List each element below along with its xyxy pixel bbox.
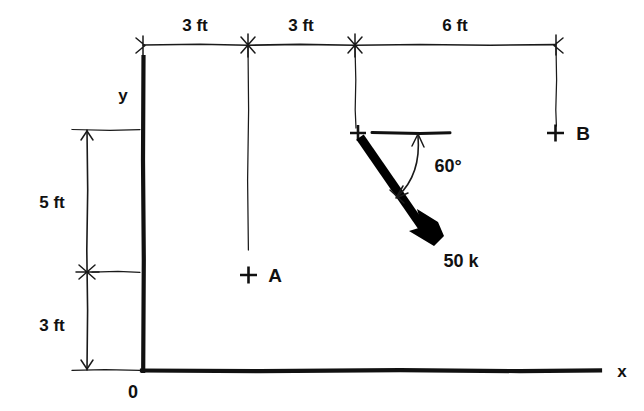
extension-line-b (556, 46, 557, 126)
point-a-group: A (240, 265, 282, 286)
point-b-label: B (576, 123, 590, 144)
x-axis (142, 370, 600, 371)
left-extension-mid (92, 272, 140, 273)
extension-lines-group (248, 46, 557, 250)
dimension-tick-start (136, 36, 145, 55)
point-b-group: B (547, 123, 590, 144)
extension-line-a (248, 46, 249, 250)
dimension-label-seg3: 6 ft (442, 16, 468, 35)
dimension-label-seg2: 3 ft (288, 16, 314, 35)
origin-label: 0 (128, 382, 138, 402)
y-axis (143, 57, 144, 371)
extension-line-load (355, 46, 356, 128)
left-dimension-line (87, 130, 88, 370)
left-extension-top (72, 130, 140, 131)
point-b-marker (547, 125, 564, 142)
load-group: 60° 50 k (350, 125, 479, 271)
y-axis-label: y (118, 86, 128, 105)
vertical-dimension-label-seg1: 5 ft (39, 193, 65, 212)
dimension-tick-end (554, 35, 563, 55)
left-extension-bottom (72, 370, 140, 371)
vertical-dimension-label-seg2: 3 ft (39, 316, 65, 335)
force-magnitude-label: 50 k (443, 251, 479, 271)
horizontal-reference-line (372, 133, 450, 134)
top-dimension-line (143, 44, 556, 45)
point-a-marker (240, 267, 257, 284)
force-vector-shaft (360, 137, 425, 231)
figure-canvas: 3 ft 3 ft 6 ft (0, 0, 644, 411)
angle-label: 60° (434, 156, 461, 176)
x-axis-label: x (617, 362, 627, 381)
axes-group: y x 0 (118, 57, 627, 402)
top-dimension-group: 3 ft 3 ft 6 ft (136, 16, 563, 57)
angle-arc (398, 136, 418, 196)
point-a-label: A (268, 265, 282, 286)
engineering-diagram: 3 ft 3 ft 6 ft (0, 0, 644, 411)
left-dimension-group: 5 ft 3 ft (39, 130, 140, 371)
dimension-label-seg1: 3 ft (182, 16, 208, 35)
